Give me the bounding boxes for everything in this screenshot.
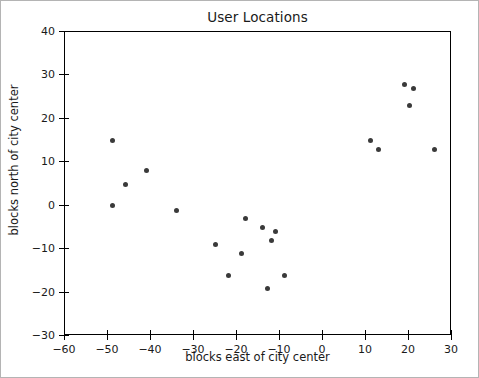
x-tick bbox=[322, 335, 323, 340]
data-point bbox=[144, 168, 149, 173]
y-tick bbox=[59, 161, 64, 162]
y-axis-label: blocks north of city center bbox=[7, 75, 21, 245]
y-tick bbox=[59, 335, 64, 336]
y-tick-label: −20 bbox=[32, 285, 55, 298]
data-point bbox=[376, 147, 381, 152]
y-tick bbox=[59, 248, 64, 249]
y-tick-label: 40 bbox=[41, 25, 55, 38]
data-point bbox=[368, 138, 373, 143]
data-point bbox=[407, 103, 412, 108]
y-tick bbox=[59, 292, 64, 293]
data-point bbox=[226, 273, 231, 278]
data-point bbox=[239, 251, 244, 256]
data-point bbox=[411, 86, 416, 91]
data-point bbox=[432, 147, 437, 152]
x-tick bbox=[107, 335, 108, 340]
x-axis-label: blocks east of city center bbox=[64, 350, 451, 364]
data-point bbox=[273, 229, 278, 234]
data-point bbox=[282, 273, 287, 278]
figure-canvas: User Locations −60−50−40−30−20−100102030… bbox=[0, 0, 479, 378]
x-tick bbox=[64, 335, 65, 340]
data-point bbox=[402, 82, 407, 87]
y-tick bbox=[59, 205, 64, 206]
x-tick bbox=[451, 335, 452, 340]
x-tick bbox=[279, 335, 280, 340]
scatter-series bbox=[65, 32, 450, 334]
data-point bbox=[269, 238, 274, 243]
x-tick bbox=[236, 335, 237, 340]
data-point bbox=[110, 203, 115, 208]
data-point bbox=[265, 286, 270, 291]
y-tick-label: 20 bbox=[41, 111, 55, 124]
y-tick-label: 0 bbox=[48, 198, 55, 211]
y-tick-label: −10 bbox=[32, 242, 55, 255]
y-tick bbox=[59, 118, 64, 119]
data-point bbox=[213, 242, 218, 247]
x-tick bbox=[365, 335, 366, 340]
data-point bbox=[123, 182, 128, 187]
x-tick bbox=[193, 335, 194, 340]
y-tick-label: 10 bbox=[41, 155, 55, 168]
data-point bbox=[243, 216, 248, 221]
data-point bbox=[260, 225, 265, 230]
x-tick bbox=[408, 335, 409, 340]
y-tick bbox=[59, 74, 64, 75]
y-tick bbox=[59, 31, 64, 32]
page-title: User Locations bbox=[64, 9, 451, 25]
x-tick bbox=[150, 335, 151, 340]
data-point bbox=[110, 138, 115, 143]
plot-area bbox=[64, 31, 451, 335]
y-tick-label: −30 bbox=[32, 329, 55, 342]
data-point bbox=[174, 208, 179, 213]
y-tick-label: 30 bbox=[41, 68, 55, 81]
